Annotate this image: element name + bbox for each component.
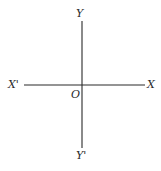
y-negative-label: Y' — [76, 150, 86, 161]
x-negative-label: X' — [8, 79, 19, 90]
y-positive-label: Y — [76, 8, 83, 19]
origin-label: O — [71, 89, 80, 100]
axes-diagram — [0, 0, 161, 171]
x-positive-label: X — [147, 79, 155, 90]
